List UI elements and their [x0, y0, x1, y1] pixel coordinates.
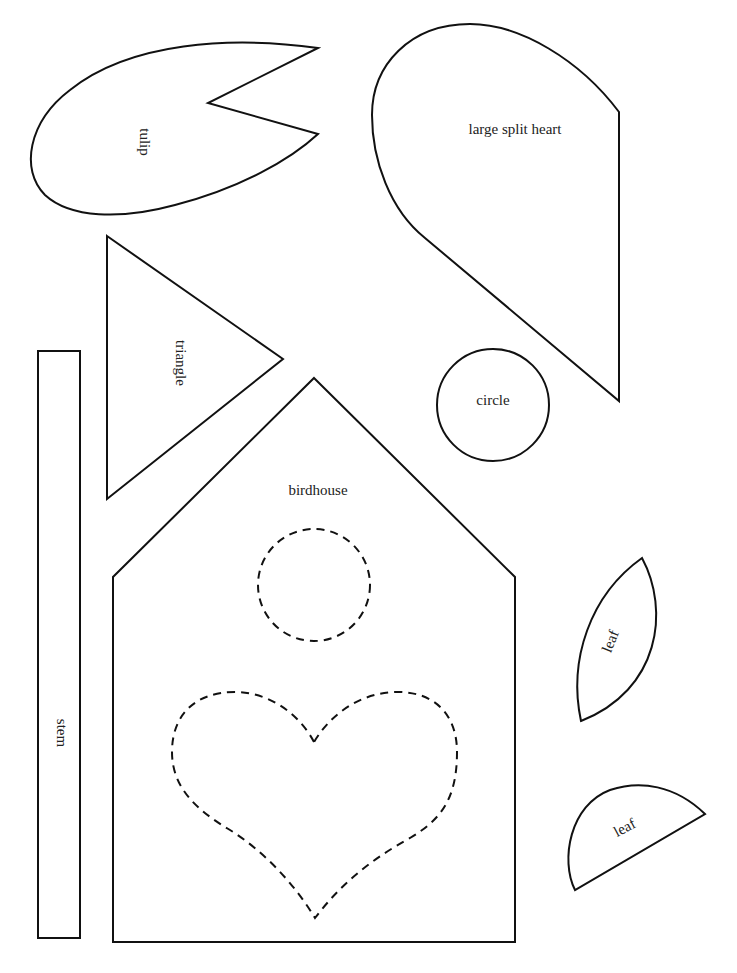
circle-label: circle: [476, 392, 510, 408]
birdhouse-hole-dashed-circle: [258, 529, 370, 641]
birdhouse-dashed-heart: [172, 692, 457, 918]
leaf-lower-label: leaf: [611, 815, 638, 840]
large-split-heart-label: large split heart: [468, 121, 562, 137]
triangle-label: triangle: [173, 340, 189, 386]
leaf-upper-label: leaf: [599, 628, 622, 655]
circle-shape: circle: [437, 349, 549, 461]
birdhouse-shape: birdhouse: [113, 378, 515, 942]
large-split-heart-shape: large split heart: [372, 24, 619, 401]
birdhouse-label: birdhouse: [288, 482, 348, 498]
template-sheet: tulip large split heart triangle stem ci…: [0, 0, 737, 973]
stem-label: stem: [54, 719, 70, 748]
tulip-shape: tulip: [31, 43, 318, 215]
stem-shape: stem: [38, 351, 80, 938]
triangle-shape: triangle: [107, 236, 283, 499]
leaf-upper-shape: leaf: [577, 558, 656, 721]
tulip-label: tulip: [137, 128, 153, 156]
leaf-lower-shape: leaf: [568, 785, 705, 890]
